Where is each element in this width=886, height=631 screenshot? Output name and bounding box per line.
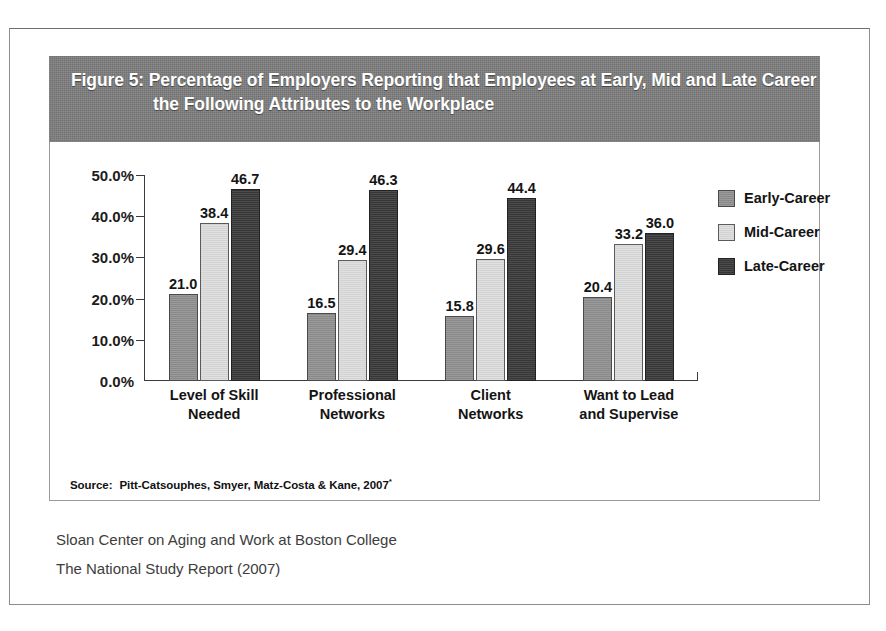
category-label-line: Networks bbox=[283, 405, 421, 424]
legend-item[interactable]: Mid-Career bbox=[718, 215, 878, 249]
bar[interactable]: 33.2 bbox=[614, 244, 643, 381]
bar-value-label: 46.7 bbox=[231, 171, 259, 187]
bar-value-label: 33.2 bbox=[615, 226, 643, 242]
legend-label: Late-Career bbox=[744, 258, 825, 274]
y-axis-tick bbox=[136, 175, 145, 176]
y-axis-tick bbox=[136, 216, 145, 217]
y-axis-labels: 0.0%10.0%20.0%30.0%40.0%50.0% bbox=[56, 143, 134, 500]
bar[interactable]: 20.4 bbox=[583, 297, 612, 381]
bar[interactable]: 38.4 bbox=[200, 223, 229, 381]
x-axis-category-label: Level of SkillNeeded bbox=[145, 386, 283, 424]
bars-area: 21.038.446.716.529.446.315.829.644.420.4… bbox=[145, 175, 698, 381]
bar-value-label: 29.4 bbox=[338, 242, 366, 258]
y-axis-tick-label: 50.0% bbox=[62, 167, 134, 184]
chart-plot-region: 0.0%10.0%20.0%30.0%40.0%50.0% 21.038.446… bbox=[50, 143, 819, 500]
y-axis-tick-label: 20.0% bbox=[62, 290, 134, 307]
bar-group: 15.829.644.4 bbox=[422, 175, 560, 381]
source-citation: Pitt-Catsouphes, Smyer, Matz-Costa & Kan… bbox=[119, 479, 388, 491]
category-label-line: Needed bbox=[145, 405, 283, 424]
bar-value-label: 36.0 bbox=[646, 215, 674, 231]
y-axis-tick-label: 10.0% bbox=[62, 331, 134, 348]
y-axis-tick bbox=[136, 299, 145, 300]
bar-value-label: 29.6 bbox=[477, 241, 505, 257]
y-axis-tick bbox=[136, 257, 145, 258]
figure-panel: Figure 5: Percentage of Employers Report… bbox=[49, 56, 820, 501]
footer-line-1: Sloan Center on Aging and Work at Boston… bbox=[56, 525, 756, 554]
x-axis-category-label: Want to Leadand Supervise bbox=[560, 386, 698, 424]
bar-group: 21.038.446.7 bbox=[145, 175, 283, 381]
legend-item[interactable]: Late-Career bbox=[718, 249, 878, 283]
category-label-line: Professional bbox=[283, 386, 421, 405]
bar-value-label: 15.8 bbox=[446, 298, 474, 314]
figure-title: Figure 5: Percentage of Employers Report… bbox=[71, 68, 820, 116]
bar-group: 20.433.236.0 bbox=[560, 175, 698, 381]
category-label-line: and Supervise bbox=[560, 405, 698, 424]
footer-line-2: The National Study Report (2007) bbox=[56, 554, 756, 583]
bar[interactable]: 29.4 bbox=[338, 260, 367, 381]
bar[interactable]: 46.7 bbox=[231, 189, 260, 381]
legend-item[interactable]: Early-Career bbox=[718, 181, 878, 215]
source-note: Source:Pitt-Catsouphes, Smyer, Matz-Cost… bbox=[70, 477, 392, 491]
category-label-line: Networks bbox=[422, 405, 560, 424]
bar[interactable]: 46.3 bbox=[369, 190, 398, 381]
bar-value-label: 46.3 bbox=[369, 172, 397, 188]
bar[interactable]: 44.4 bbox=[507, 198, 536, 381]
legend-swatch bbox=[718, 258, 735, 275]
bar[interactable]: 15.8 bbox=[445, 316, 474, 381]
footer: Sloan Center on Aging and Work at Boston… bbox=[56, 525, 756, 583]
bar-value-label: 21.0 bbox=[169, 276, 197, 292]
y-axis-tick-label: 40.0% bbox=[62, 208, 134, 225]
x-axis-category-label: ProfessionalNetworks bbox=[283, 386, 421, 424]
bar[interactable]: 29.6 bbox=[476, 259, 505, 381]
y-axis-tick bbox=[136, 340, 145, 341]
bar[interactable]: 36.0 bbox=[645, 233, 674, 381]
bar[interactable]: 21.0 bbox=[169, 294, 198, 381]
bar-value-label: 20.4 bbox=[584, 279, 612, 295]
source-marker: * bbox=[389, 477, 392, 486]
category-label-line: Want to Lead bbox=[560, 386, 698, 405]
legend-label: Early-Career bbox=[744, 190, 830, 206]
y-axis-tick-label: 30.0% bbox=[62, 249, 134, 266]
legend-label: Mid-Career bbox=[744, 224, 820, 240]
bar[interactable]: 16.5 bbox=[307, 313, 336, 381]
bar-value-label: 38.4 bbox=[200, 205, 228, 221]
bar-group: 16.529.446.3 bbox=[283, 175, 421, 381]
legend-swatch bbox=[718, 190, 735, 207]
y-axis-tick-label: 0.0% bbox=[62, 373, 134, 390]
bar-value-label: 16.5 bbox=[307, 295, 335, 311]
category-label-line: Client bbox=[422, 386, 560, 405]
source-label: Source: bbox=[70, 479, 112, 491]
figure-title-band: Figure 5: Percentage of Employers Report… bbox=[49, 56, 820, 142]
legend-swatch bbox=[718, 224, 735, 241]
category-label-line: Level of Skill bbox=[145, 386, 283, 405]
bar-value-label: 44.4 bbox=[508, 180, 536, 196]
x-axis-category-label: ClientNetworks bbox=[422, 386, 560, 424]
x-axis-category-labels: Level of SkillNeededProfessionalNetworks… bbox=[145, 386, 698, 438]
chart-legend: Early-CareerMid-CareerLate-Career bbox=[718, 181, 878, 283]
page-frame: Figure 5: Percentage of Employers Report… bbox=[9, 28, 870, 605]
